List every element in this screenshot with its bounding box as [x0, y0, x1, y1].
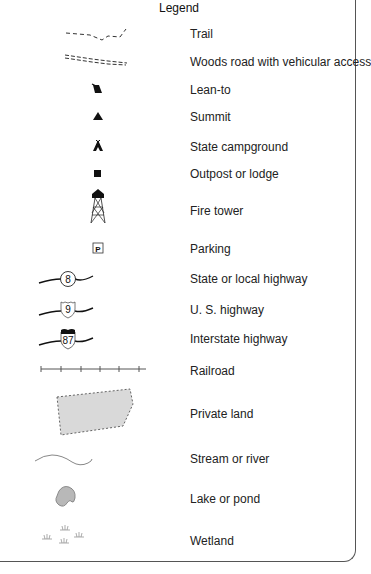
legend-item-interstate: 87 Interstate highway: [0, 327, 358, 351]
woods-road-double-dashed-line-icon: [30, 52, 170, 72]
legend-item-fire-tower: Fire tower: [0, 187, 358, 227]
us-highway-shield-icon: 9: [30, 298, 170, 322]
lean-to-icon: [30, 80, 170, 100]
legend-label: State or local highway: [190, 272, 307, 286]
trail-dashed-line-icon: [30, 24, 170, 44]
legend-label: Parking: [190, 242, 231, 256]
parking-p-icon: P: [30, 239, 170, 259]
legend-label: Fire tower: [190, 204, 243, 218]
legend-item-trail: Trail: [0, 24, 358, 44]
legend-label: Interstate highway: [190, 332, 287, 346]
legend-label: Trail: [190, 27, 213, 41]
legend-label: Outpost or lodge: [190, 167, 279, 181]
legend-item-lodge: Outpost or lodge: [0, 164, 358, 184]
lodge-square-icon: [30, 164, 170, 184]
legend-item-summit: Summit: [0, 107, 358, 127]
svg-text:P: P: [95, 245, 101, 254]
legend-label: Woods road with vehicular access: [190, 55, 371, 69]
legend-item-railroad: Railroad: [0, 361, 358, 381]
legend-item-parking: P Parking: [0, 239, 358, 259]
legend-item-wetland: Wetland: [0, 525, 358, 555]
railroad-tick-line-icon: [30, 361, 170, 381]
route-number: 9: [65, 304, 71, 315]
legend-label: Wetland: [190, 534, 234, 548]
legend-item-private-land: Private land: [0, 386, 358, 441]
state-highway-circle-shield-icon: 8: [30, 267, 170, 291]
legend-label: U. S. highway: [190, 303, 264, 317]
legend-item-woods-road: Woods road with vehicular access: [0, 52, 358, 72]
legend-label: Stream or river: [190, 452, 269, 466]
legend-label: Lake or pond: [190, 492, 260, 506]
lake-blob-icon: [30, 484, 170, 514]
legend-label: Railroad: [190, 364, 235, 378]
legend-item-lake: Lake or pond: [0, 484, 358, 514]
stream-wavy-line-icon: [30, 449, 170, 469]
fire-tower-icon: [30, 187, 170, 227]
legend-title: Legend: [0, 1, 358, 15]
private-land-polygon-icon: [30, 386, 170, 441]
route-number: 8: [65, 274, 71, 285]
campground-tent-icon: [30, 137, 170, 157]
summit-triangle-icon: [30, 107, 170, 127]
interstate-shield-icon: 87: [30, 327, 170, 351]
legend-label: State campground: [190, 140, 288, 154]
legend-label: Summit: [190, 110, 231, 124]
wetland-marsh-icon: [30, 525, 170, 555]
legend-label: Private land: [190, 407, 253, 421]
legend-item-campground: State campground: [0, 137, 358, 157]
legend-item-stream: Stream or river: [0, 449, 358, 469]
legend-item-lean-to: Lean-to: [0, 80, 358, 100]
legend-item-us-highway: 9 U. S. highway: [0, 298, 358, 322]
legend-label: Lean-to: [190, 83, 231, 97]
route-number: 87: [62, 335, 74, 346]
legend-item-state-highway: 8 State or local highway: [0, 267, 358, 291]
